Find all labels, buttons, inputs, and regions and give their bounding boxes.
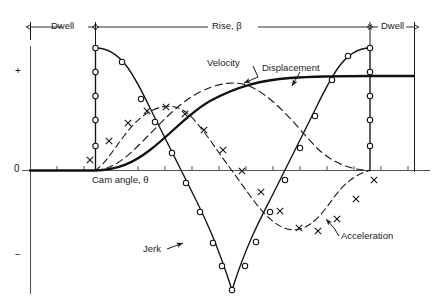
curve-velocity — [95, 83, 370, 171]
y-axis-plus-label: + — [15, 66, 21, 76]
span-label-rise: Rise, β — [212, 21, 242, 31]
curve-label-displacement: Displacement — [262, 63, 320, 73]
curve-acceleration — [87, 104, 377, 234]
y-axis-zero-label: 0 — [14, 164, 20, 174]
curve-displacement — [30, 76, 414, 171]
curve-jerk — [93, 45, 373, 292]
x-axis-label: Cam angle, θ — [92, 175, 149, 185]
curve-label-velocity: Velocity — [207, 58, 240, 68]
leader-lines — [167, 66, 339, 249]
span-label-rise-text: Rise, β — [212, 20, 242, 31]
figure-canvas — [0, 0, 442, 303]
span-label-dwell-right: Dwell — [381, 21, 404, 31]
acceleration-markers — [87, 104, 377, 234]
span-label-dwell-left: Dwell — [51, 21, 74, 31]
leader-acceleration — [326, 219, 339, 236]
leader-velocity — [244, 66, 258, 83]
curve-label-acceleration: Acceleration — [341, 231, 393, 241]
jerk-markers — [93, 45, 373, 292]
y-axis-minus-label: − — [15, 250, 21, 260]
leader-jerk — [167, 243, 183, 249]
cam-motion-figure: Dwell Rise, β Dwell + 0 − Cam angle, θ V… — [0, 0, 442, 303]
leader-displacement — [292, 72, 300, 86]
curve-label-jerk: Jerk — [143, 244, 161, 254]
